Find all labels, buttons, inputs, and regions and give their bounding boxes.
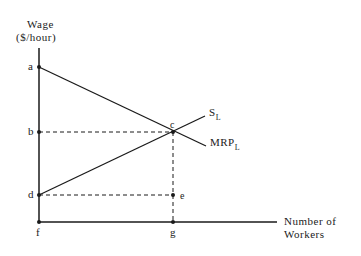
- point-a-dot: [37, 65, 41, 69]
- supply-curve-label: SL: [209, 106, 221, 120]
- point-f-dot: [37, 220, 41, 224]
- point-g-dot: [171, 220, 175, 224]
- point-d-dot: [37, 193, 41, 197]
- point-b-dot: [37, 130, 41, 134]
- point-a-label: a: [28, 60, 33, 73]
- point-f-label: f: [36, 226, 40, 239]
- point-g-label: g: [170, 226, 176, 239]
- point-d-label: d: [28, 188, 34, 201]
- supply-curve: [39, 116, 205, 195]
- y-axis-label-line2: ($/hour): [16, 31, 56, 44]
- mrp-curve: [39, 67, 206, 146]
- point-e-dot: [171, 193, 175, 197]
- point-b-label: b: [28, 125, 34, 138]
- x-axis-label-line2: Workers: [284, 228, 325, 241]
- point-e-label: e: [180, 189, 185, 202]
- y-axis-label-line1: Wage: [27, 18, 54, 31]
- x-axis-label-line1: Number of: [284, 215, 336, 228]
- mrp-curve-label: MRPL: [210, 136, 240, 150]
- point-c-label: c: [170, 118, 175, 131]
